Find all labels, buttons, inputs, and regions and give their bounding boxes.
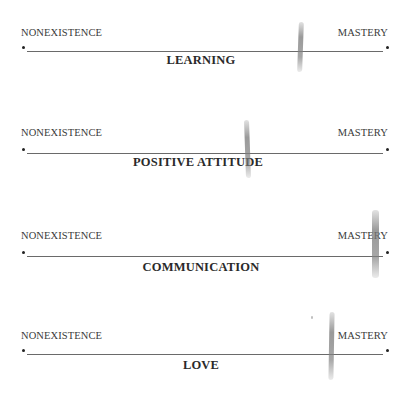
right-endpoint-dot bbox=[386, 148, 389, 151]
right-endpoint-dot bbox=[386, 46, 389, 49]
left-label: NONEXISTENCE bbox=[21, 330, 102, 341]
left-label: NONEXISTENCE bbox=[21, 127, 102, 138]
scale-line[interactable] bbox=[27, 153, 383, 154]
scale-love: NONEXISTENCE MASTERY LOVE bbox=[0, 300, 410, 400]
scale-learning: NONEXISTENCE MASTERY LEARNING bbox=[0, 0, 410, 100]
right-endpoint-dot bbox=[386, 251, 389, 254]
pencil-speck bbox=[311, 316, 313, 319]
left-endpoint-dot bbox=[22, 46, 25, 49]
right-label: MASTERY bbox=[338, 230, 388, 241]
right-label: MASTERY bbox=[338, 127, 388, 138]
pencil-mark[interactable] bbox=[372, 210, 379, 278]
scale-positive-attitude: NONEXISTENCE MASTERY POSITIVE ATTITUDE bbox=[0, 100, 410, 200]
scale-title: COMMUNICATION bbox=[0, 260, 402, 275]
left-endpoint-dot bbox=[22, 251, 25, 254]
scale-communication: NONEXISTENCE MASTERY COMMUNICATION bbox=[0, 200, 410, 300]
scale-line[interactable] bbox=[27, 51, 383, 52]
right-label: MASTERY bbox=[338, 27, 388, 38]
left-label: NONEXISTENCE bbox=[21, 230, 102, 241]
left-label: NONEXISTENCE bbox=[21, 27, 102, 38]
right-endpoint-dot bbox=[386, 349, 389, 352]
scale-title: POSITIVE ATTITUDE bbox=[0, 155, 399, 170]
scale-line[interactable] bbox=[27, 256, 383, 257]
left-endpoint-dot bbox=[22, 349, 25, 352]
right-label: MASTERY bbox=[338, 330, 388, 341]
scale-title: LEARNING bbox=[0, 53, 402, 68]
pencil-mark[interactable] bbox=[244, 120, 251, 178]
left-endpoint-dot bbox=[22, 148, 25, 151]
scale-title: LOVE bbox=[0, 358, 402, 373]
